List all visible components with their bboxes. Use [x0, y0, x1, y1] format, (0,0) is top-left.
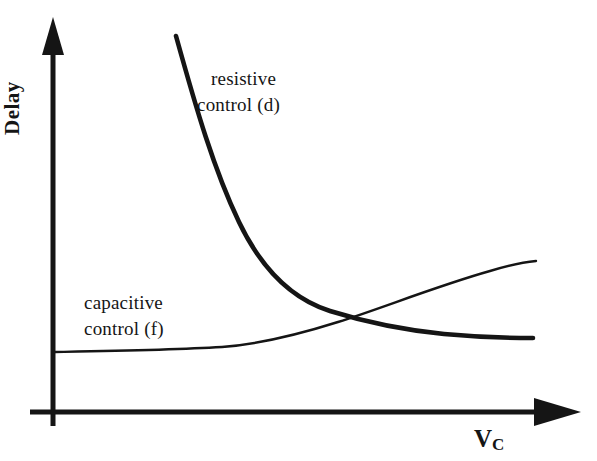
x-axis-title-base: V	[474, 425, 492, 452]
annotation-resistive-control: resistivecontrol (d)	[197, 66, 280, 118]
x-axis-arrowhead	[534, 398, 581, 426]
delay-vs-vc-figure: Delay VC resistivecontrol (d) capacitive…	[0, 0, 597, 461]
x-axis-title: VC	[474, 424, 504, 460]
y-axis-arrowhead	[42, 17, 64, 55]
annotation-capacitive-line-1: capacitive	[84, 290, 164, 316]
annotation-capacitive-line-2: control (f)	[84, 316, 164, 342]
plot-canvas	[0, 0, 597, 461]
y-axis-title: Delay	[0, 93, 75, 135]
annotation-resistive-line-2: control (d)	[197, 92, 280, 118]
x-axis-title-subscript: C	[492, 435, 504, 454]
annotation-capacitive-control: capacitivecontrol (f)	[84, 290, 164, 342]
annotation-resistive-line-1: resistive	[197, 66, 280, 92]
